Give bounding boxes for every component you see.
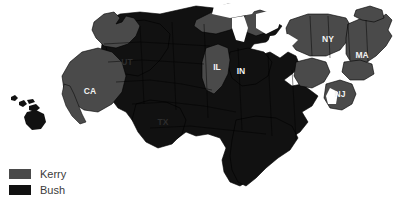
election-cartogram-figure: CA UT TX IL IN NY MA NJ Kerry Bush bbox=[0, 0, 405, 213]
state-label-ny: NY bbox=[322, 34, 334, 44]
legend-label-bush: Bush bbox=[40, 184, 65, 196]
legend-label-kerry: Kerry bbox=[40, 168, 66, 180]
map-legend: Kerry Bush bbox=[9, 167, 104, 199]
legend-item-kerry: Kerry bbox=[9, 167, 104, 181]
state-label-ca: CA bbox=[84, 86, 96, 96]
legend-swatch-kerry bbox=[9, 169, 31, 179]
state-label-ut: UT bbox=[121, 57, 133, 67]
state-label-tx: TX bbox=[158, 117, 169, 127]
state-label-il: IL bbox=[213, 62, 221, 72]
state-label-ma: MA bbox=[355, 50, 368, 60]
kerry-connecticut-rhodeisland bbox=[342, 60, 374, 80]
state-label-in: IN bbox=[237, 66, 246, 76]
legend-swatch-bush bbox=[9, 185, 31, 195]
legend-item-bush: Bush bbox=[9, 183, 104, 197]
state-label-nj: NJ bbox=[335, 89, 346, 99]
